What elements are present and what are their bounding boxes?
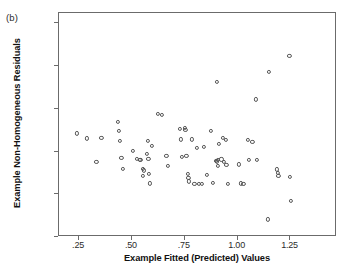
y-tick-mark [54,151,58,152]
x-tick-label: 1.25 [281,240,298,250]
x-tick-label: .75 [178,240,190,250]
x-axis-title: Example Fitted (Predicted) Values [58,253,336,263]
y-tick-mark [54,22,58,23]
y-tick-mark [54,236,58,237]
x-tick-label: .25 [72,240,84,250]
y-axis-title: Example Non-Homogeneous Residuals [12,23,22,223]
y-tick-mark [54,108,58,109]
y-tick-mark [54,65,58,66]
plot-area [58,12,336,236]
y-tick-mark [54,193,58,194]
x-tick-label: .50 [125,240,137,250]
scatter-plot-figure: (b) Example Non-Homogeneous Residuals -1… [0,0,344,269]
x-tick-label: 1.00 [228,240,245,250]
panel-label: (b) [6,12,18,23]
